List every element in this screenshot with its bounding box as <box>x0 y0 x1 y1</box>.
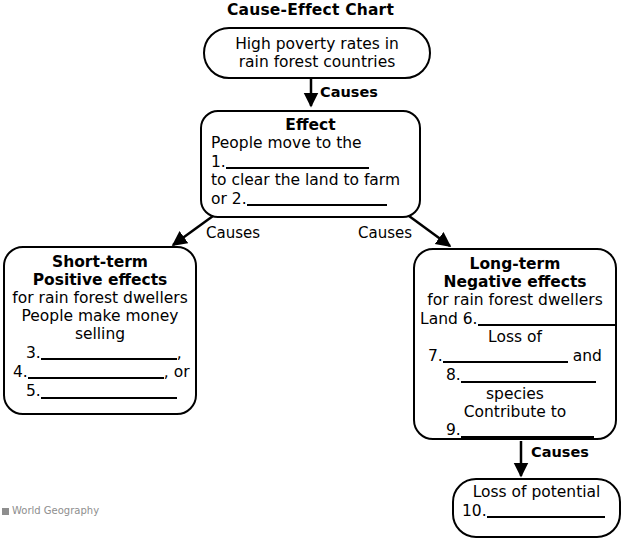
node-long-heading-line-1: Long-term <box>420 256 610 274</box>
node-short-term-positive-effects: Short-term Positive effects for rain for… <box>3 246 197 415</box>
node-short-blank-3-row: 3., <box>12 344 188 363</box>
footer-note: World Geography <box>2 505 99 516</box>
node-short-blank-4-row: 4., or <box>12 363 188 382</box>
node-short-heading-line-1: Short-term <box>12 254 188 272</box>
footer-bullet-icon <box>2 508 9 515</box>
edge-label-causes-bottom: Causes <box>531 444 589 460</box>
blank-line-4[interactable] <box>28 363 164 379</box>
node-short-line-1: for rain forest dwellers <box>12 290 188 308</box>
node-long-term-negative-effects: Long-term Negative effects for rain fore… <box>413 248 617 440</box>
node-long-blank-8-row: 8. <box>420 366 610 385</box>
node-long-line-4: species <box>420 386 610 404</box>
edge-label-causes-right: Causes <box>358 224 412 242</box>
node-poverty-line-1: High poverty rates in <box>205 36 429 54</box>
node-short-heading-line-2: Positive effects <box>12 272 188 290</box>
node-short-blank-3-suffix: , <box>177 344 182 362</box>
node-loss-blank-10-row: 10. <box>462 502 611 521</box>
node-high-poverty-rates: High poverty rates in rain forest countr… <box>203 27 431 79</box>
node-short-blank-4-number: 4. <box>13 363 28 381</box>
node-long-blank-9-number: 9. <box>446 422 461 440</box>
node-short-blank-5-row: 5. <box>12 382 188 401</box>
node-long-blank-7-suffix: and <box>573 347 602 365</box>
edge-label-causes-left: Causes <box>206 224 260 242</box>
blank-line-1[interactable] <box>226 153 369 169</box>
node-long-line-5: Contribute to <box>420 404 610 422</box>
node-short-line-3: selling <box>12 326 188 344</box>
node-loss-blank-10-number: 10. <box>462 502 487 520</box>
blank-line-10[interactable] <box>487 502 605 518</box>
node-effect: Effect People move to the 1. to clear th… <box>200 110 421 218</box>
blank-line-8[interactable] <box>461 366 596 382</box>
node-long-blank-9-row: 9. <box>420 421 610 440</box>
node-effect-blank-1-number: 1. <box>211 153 226 171</box>
arrow-effect-to-long-term <box>409 216 450 246</box>
edge-label-causes-top: Causes <box>320 84 378 100</box>
node-effect-heading: Effect <box>211 117 410 135</box>
node-effect-blank-2-number: 2. <box>232 190 247 208</box>
blank-line-7[interactable] <box>443 347 568 363</box>
node-loss-line-1: Loss of potential <box>462 484 611 502</box>
node-long-blank-7-row: 7. and <box>420 347 610 366</box>
node-effect-blank-2-row: or 2. <box>211 190 410 209</box>
node-poverty-line-2: rain forest countries <box>205 54 429 72</box>
node-loss-of-potential: Loss of potential 10. <box>452 478 621 538</box>
node-short-blank-3-number: 3. <box>26 344 41 362</box>
node-long-blank-8-number: 8. <box>446 367 461 385</box>
node-effect-blank-1-row: 1. <box>211 153 410 172</box>
node-long-blank-7-number: 7. <box>428 347 443 365</box>
node-long-line-1: for rain forest dwellers <box>420 292 610 310</box>
node-short-line-2: People make money <box>12 308 188 326</box>
node-long-line-2-prefix: Land <box>420 310 458 328</box>
page-title: Cause-Effect Chart <box>0 1 621 19</box>
node-long-blank-6-number: 6. <box>463 310 478 328</box>
node-short-blank-5-number: 5. <box>26 383 41 401</box>
node-effect-line-3-prefix: or <box>211 190 227 208</box>
blank-line-5[interactable] <box>41 382 177 398</box>
footer-note-text: World Geography <box>12 505 99 516</box>
node-long-heading-line-2: Negative effects <box>420 274 610 292</box>
blank-line-3[interactable] <box>41 344 177 360</box>
node-long-blank-6-row: Land 6. <box>420 310 610 329</box>
blank-line-2[interactable] <box>247 190 387 206</box>
node-long-line-3: Loss of <box>420 329 610 347</box>
blank-line-9[interactable] <box>461 421 594 437</box>
node-short-blank-4-suffix: , or <box>164 363 190 381</box>
node-effect-line-2: to clear the land to farm <box>211 172 410 190</box>
node-effect-line-1: People move to the <box>211 135 410 153</box>
blank-line-6[interactable] <box>478 310 617 326</box>
